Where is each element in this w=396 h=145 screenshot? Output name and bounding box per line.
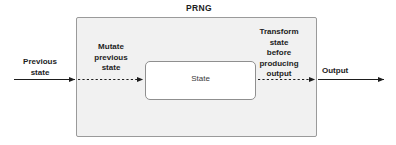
state-box-label: State <box>145 74 256 83</box>
prng-title-label: PRNG <box>0 3 396 13</box>
transform-state-label: Transform state before producing output <box>250 27 308 80</box>
output-label: Output <box>322 66 382 77</box>
mutate-previous-state-label: Mutate previous state <box>80 42 142 74</box>
previous-state-label: Previous state <box>6 57 74 78</box>
prng-diagram: PRNG State Previous state Mutate previou… <box>0 0 396 145</box>
